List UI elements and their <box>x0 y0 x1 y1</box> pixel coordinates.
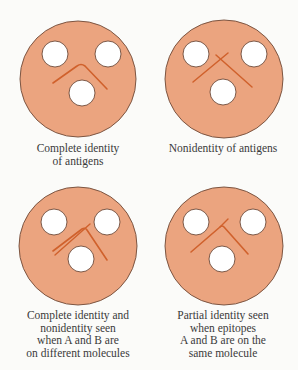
caption-complete-identity: Complete identity of antigens <box>3 142 153 167</box>
antigen-well-a <box>183 41 209 67</box>
agar-plate <box>20 21 136 137</box>
antibody-well <box>68 246 94 272</box>
caption-line: of antigens <box>3 155 153 168</box>
caption-nonidentity: Nonidentity of antigens <box>148 142 298 155</box>
panel-partial-identity: Partial identity seen when epitopes A an… <box>148 170 298 370</box>
caption-line: Partial identity seen <box>148 309 298 322</box>
antigen-well-b <box>240 209 266 235</box>
antibody-well <box>209 246 235 272</box>
caption-line: Complete identity <box>3 142 153 155</box>
caption-line: Nonidentity of antigens <box>148 142 298 155</box>
panel-complete-identity: Complete identity of antigens <box>0 0 150 185</box>
caption-line: when epitopes <box>148 322 298 335</box>
caption-line: A and B are on the <box>148 334 298 347</box>
caption-line: same molecule <box>148 347 298 360</box>
antigen-well-a <box>183 209 209 235</box>
caption-line: Complete identity and <box>3 309 153 322</box>
immunodiffusion-plate-partial-identity <box>148 170 298 310</box>
caption-line: when A and B are <box>3 334 153 347</box>
antibody-well <box>210 79 236 105</box>
antigen-well-a <box>42 41 68 67</box>
antigen-well-a <box>41 209 67 235</box>
immunodiffusion-plate-identity-and-nonidentity <box>0 170 150 310</box>
caption-partial-identity: Partial identity seen when epitopes A an… <box>148 309 298 359</box>
antibody-well <box>69 80 95 106</box>
caption-line: on different molecules <box>3 347 153 360</box>
panel-nonidentity: Nonidentity of antigens <box>148 0 298 185</box>
immunodiffusion-plate-complete-identity <box>0 0 150 140</box>
antigen-well-b <box>94 209 120 235</box>
caption-line: nonidentity seen <box>3 322 153 335</box>
antigen-well-b <box>95 41 121 67</box>
caption-identity-and-nonidentity: Complete identity and nonidentity seen w… <box>3 309 153 359</box>
antigen-well-b <box>241 41 267 67</box>
panel-identity-and-nonidentity: Complete identity and nonidentity seen w… <box>0 170 150 370</box>
immunodiffusion-plate-nonidentity <box>148 0 298 140</box>
